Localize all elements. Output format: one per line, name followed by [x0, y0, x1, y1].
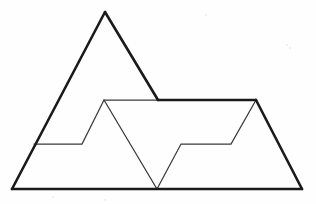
figure-background — [0, 0, 316, 204]
geometric-figure — [0, 0, 316, 204]
figure-canvas — [0, 0, 316, 204]
